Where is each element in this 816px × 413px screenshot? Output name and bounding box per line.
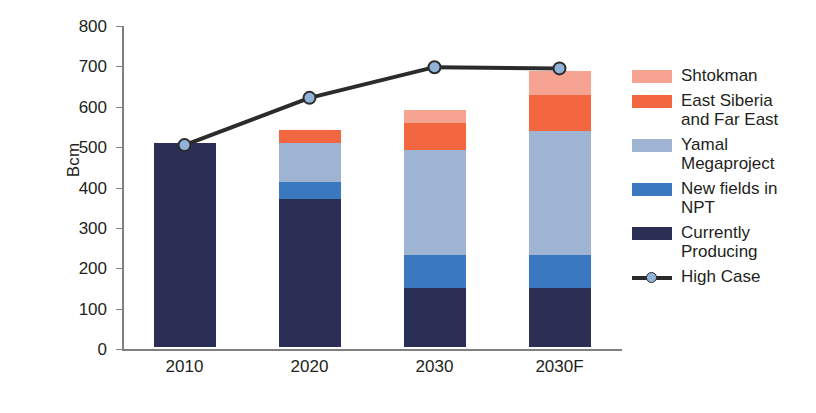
legend-item[interactable]: Shtokman bbox=[632, 66, 812, 85]
y-tick-label: 500 bbox=[79, 139, 107, 156]
bar-segment[interactable] bbox=[279, 182, 341, 199]
legend-item[interactable]: New fields in NPT bbox=[632, 179, 812, 217]
legend-color-swatch bbox=[632, 139, 672, 152]
legend-label: Yamal Megaproject bbox=[681, 135, 775, 173]
legend-item[interactable]: High Case bbox=[632, 267, 812, 286]
legend-label: Shtokman bbox=[681, 66, 758, 85]
bar-segment[interactable] bbox=[279, 199, 341, 347]
x-axis-line bbox=[122, 349, 622, 351]
bar-group bbox=[529, 24, 591, 347]
legend-item[interactable]: East Siberia and Far East bbox=[632, 91, 812, 129]
bar-segment[interactable] bbox=[529, 288, 591, 347]
bar-segment[interactable] bbox=[529, 131, 591, 255]
legend-color-swatch bbox=[632, 95, 672, 108]
legend-label: Currently Producing bbox=[681, 223, 758, 261]
chart-legend: ShtokmanEast Siberia and Far EastYamal M… bbox=[632, 66, 812, 292]
x-axis-label: 2030 bbox=[372, 357, 497, 377]
y-tick-label: 0 bbox=[98, 341, 107, 358]
bar-group bbox=[154, 24, 216, 347]
y-tick: 500 bbox=[116, 147, 122, 148]
x-axis-label: 2010 bbox=[122, 357, 247, 377]
y-tick: 100 bbox=[116, 309, 122, 310]
bar-segment[interactable] bbox=[279, 130, 341, 143]
y-axis-title: Bcm bbox=[64, 100, 84, 220]
bar-segment[interactable] bbox=[279, 143, 341, 182]
bar-group bbox=[279, 24, 341, 347]
stacked-bar[interactable] bbox=[154, 24, 216, 347]
bar-segment[interactable] bbox=[404, 288, 466, 347]
bar-segment[interactable] bbox=[529, 255, 591, 288]
y-tick-label: 700 bbox=[79, 58, 107, 75]
legend-label: New fields in NPT bbox=[681, 179, 777, 217]
y-tick: 200 bbox=[116, 268, 122, 269]
bar-segment[interactable] bbox=[154, 143, 216, 347]
legend-color-swatch bbox=[632, 70, 672, 83]
bar-segment[interactable] bbox=[404, 255, 466, 288]
legend-color-swatch bbox=[632, 227, 672, 240]
y-tick-label: 600 bbox=[79, 98, 107, 115]
y-tick: 700 bbox=[116, 66, 122, 67]
y-tick-label: 300 bbox=[79, 219, 107, 236]
bar-group bbox=[404, 24, 466, 347]
y-tick-label: 200 bbox=[79, 260, 107, 277]
legend-item[interactable]: Currently Producing bbox=[632, 223, 812, 261]
high-case-line bbox=[185, 67, 560, 145]
y-tick: 0 bbox=[116, 349, 122, 350]
y-tick: 400 bbox=[116, 188, 122, 189]
stacked-bar[interactable] bbox=[529, 24, 591, 347]
bar-segment[interactable] bbox=[529, 71, 591, 95]
y-tick-label: 100 bbox=[79, 300, 107, 317]
bar-segment[interactable] bbox=[529, 95, 591, 131]
legend-line-marker-icon bbox=[632, 271, 672, 284]
x-axis-label: 2030F bbox=[497, 357, 622, 377]
x-axis-label: 2020 bbox=[247, 357, 372, 377]
y-tick: 300 bbox=[116, 228, 122, 229]
plot-area: 0100200300400500600700800 20102020203020… bbox=[122, 26, 622, 349]
y-axis-line bbox=[122, 26, 124, 349]
y-tick-label: 400 bbox=[79, 179, 107, 196]
legend-item[interactable]: Yamal Megaproject bbox=[632, 135, 812, 173]
legend-label: High Case bbox=[681, 267, 760, 286]
bar-segment[interactable] bbox=[404, 123, 466, 150]
legend-label: East Siberia and Far East bbox=[681, 91, 778, 129]
bar-segment[interactable] bbox=[404, 150, 466, 255]
chart-container: Bcm 0100200300400500600700800 2010202020… bbox=[0, 0, 816, 413]
stacked-bar[interactable] bbox=[404, 24, 466, 347]
y-tick: 600 bbox=[116, 107, 122, 108]
y-tick-label: 800 bbox=[79, 18, 107, 35]
stacked-bar[interactable] bbox=[279, 24, 341, 347]
y-tick: 800 bbox=[116, 26, 122, 27]
bar-segment[interactable] bbox=[404, 110, 466, 123]
legend-color-swatch bbox=[632, 183, 672, 196]
